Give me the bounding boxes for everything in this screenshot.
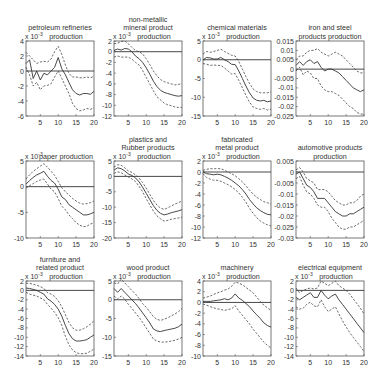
y-tick-label: -4 xyxy=(288,306,294,313)
y-tick-label: -0.005 xyxy=(274,180,294,187)
scale-label: x 10-3 xyxy=(202,151,220,160)
scale-label: x 10-3 xyxy=(25,31,43,40)
y-tick-label: -5 xyxy=(18,209,24,216)
x-tick-label: 5 xyxy=(308,241,312,248)
y-tick-label: -8 xyxy=(195,213,201,220)
x-tick-label: 5 xyxy=(215,241,219,248)
x-tick-label: 20 xyxy=(360,359,368,366)
y-tick-label: -10 xyxy=(102,334,112,341)
y-tick-label: -2 xyxy=(106,59,112,66)
y-tick-label: 0 xyxy=(197,299,201,306)
series-response xyxy=(26,288,94,341)
y-tick-label: 0 xyxy=(20,183,24,190)
y-tick-label: 2 xyxy=(20,53,24,60)
y-tick-label: -15 xyxy=(102,353,112,360)
subplot-11: electrical equipmentproductionx 10-320-2… xyxy=(284,263,368,366)
x-tick-label: 5 xyxy=(38,359,42,366)
series-upper xyxy=(296,168,364,205)
x-tick-label: 5 xyxy=(38,119,42,126)
axes-frame xyxy=(296,161,364,238)
subplot-title: production xyxy=(319,272,353,281)
scale-exponent: -3 xyxy=(38,31,43,37)
x-tick-label: 5 xyxy=(215,119,219,126)
y-tick-label: -15 xyxy=(191,113,201,120)
subplot-9: wood productproductionx 10-350-5-10-1551… xyxy=(102,263,186,366)
y-tick-label: -20 xyxy=(102,235,112,242)
y-tick-label: -2 xyxy=(18,83,24,90)
y-tick-label: 2 xyxy=(197,158,201,165)
scale-label: x 10-3 xyxy=(202,271,220,280)
y-tick-label: -2 xyxy=(195,180,201,187)
x-tick-label: 5 xyxy=(126,241,130,248)
y-tick-label: -12 xyxy=(14,343,24,350)
subplot-title: production xyxy=(226,152,260,161)
x-tick-label: 10 xyxy=(231,119,239,126)
y-tick-label: -0.02 xyxy=(278,213,294,220)
y-tick-label: -4 xyxy=(18,98,24,105)
y-tick-label: 0 xyxy=(108,296,112,303)
y-tick-label: 0 xyxy=(290,287,294,294)
impulse-response-figure: petroleum refineriesproductionx 10-3420-… xyxy=(0,0,379,379)
subplot-8: furniture andrelated productproductionx … xyxy=(14,255,98,366)
y-tick-label: 0 xyxy=(108,173,112,180)
x-tick-label: 20 xyxy=(90,359,98,366)
y-tick-label: -0.005 xyxy=(274,75,294,82)
x-tick-label: 20 xyxy=(178,119,186,126)
y-tick-label: -2 xyxy=(195,310,201,317)
subplot-title: production xyxy=(49,32,83,41)
series-lower xyxy=(114,56,182,107)
scale-label: x 10-3 xyxy=(25,271,43,280)
y-tick-label: -8 xyxy=(288,324,294,331)
x-tick-label: 10 xyxy=(142,119,150,126)
scale-exponent: -3 xyxy=(126,31,131,37)
y-tick-label: 4 xyxy=(20,38,24,45)
x-tick-label: 20 xyxy=(178,359,186,366)
y-tick-label: 0.005 xyxy=(276,56,294,63)
y-tick-label: 0.01 xyxy=(280,47,294,54)
y-tick-label: 0 xyxy=(108,48,112,55)
x-tick-label: 15 xyxy=(160,119,168,126)
series-upper xyxy=(114,41,182,85)
subplot-title: production xyxy=(137,32,171,41)
axes-frame xyxy=(296,41,364,116)
x-tick-label: 15 xyxy=(342,241,350,248)
x-tick-label: 5 xyxy=(308,359,312,366)
y-tick-label: -6 xyxy=(195,331,201,338)
y-tick-label: 4 xyxy=(197,278,201,285)
scale-label: x 10-3 xyxy=(113,31,131,40)
y-tick-label: -10 xyxy=(191,224,201,231)
x-tick-label: 10 xyxy=(231,359,239,366)
x-tick-label: 15 xyxy=(249,241,257,248)
y-tick-label: -8 xyxy=(195,342,201,349)
x-tick-label: 10 xyxy=(324,119,332,126)
x-tick-label: 5 xyxy=(308,119,312,126)
x-tick-label: 20 xyxy=(178,241,186,248)
y-tick-label: -5 xyxy=(106,315,112,322)
axes-frame xyxy=(26,281,94,356)
x-tick-label: 20 xyxy=(90,241,98,248)
y-tick-label: -2 xyxy=(18,296,24,303)
subplot-title: production xyxy=(49,272,83,281)
scale-exponent: -3 xyxy=(38,271,43,277)
y-tick-label: -10 xyxy=(191,94,201,101)
y-tick-label: -4 xyxy=(106,70,112,77)
subplot-10: machineryproductionx 10-3420-2-4-6-8-105… xyxy=(191,263,275,366)
y-tick-label: -0.015 xyxy=(274,94,294,101)
series-lower xyxy=(203,304,271,348)
y-tick-label: -10 xyxy=(102,102,112,109)
x-tick-label: 5 xyxy=(38,241,42,248)
x-tick-label: 15 xyxy=(342,359,350,366)
y-tick-label: 0 xyxy=(290,169,294,176)
series-lower xyxy=(26,179,94,227)
scale-exponent: -3 xyxy=(126,151,131,157)
x-tick-label: 15 xyxy=(72,119,80,126)
series-upper xyxy=(114,165,182,210)
series-response xyxy=(296,290,364,332)
series-upper xyxy=(26,164,94,205)
subplot-title: production xyxy=(313,152,347,161)
y-tick-label: -2 xyxy=(288,296,294,303)
series-response xyxy=(114,49,182,97)
subplot-title: paper production xyxy=(39,152,93,161)
y-tick-label: 0 xyxy=(197,169,201,176)
scale-exponent: -3 xyxy=(215,151,220,157)
